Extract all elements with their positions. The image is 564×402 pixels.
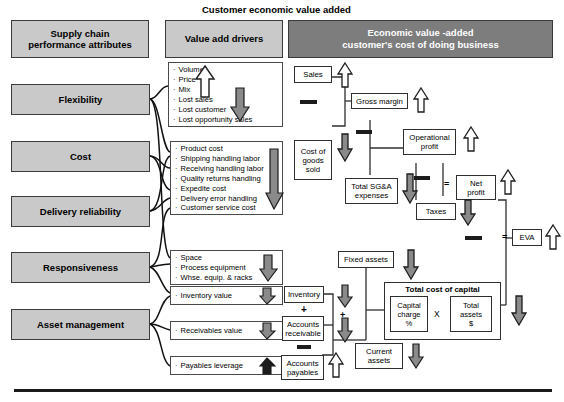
arrow-up-icon	[546, 225, 560, 249]
arrow-up-icon	[501, 170, 515, 194]
diagram-canvas: Customer economic value added Supply cha…	[0, 0, 564, 402]
financial-arrow-layer	[0, 0, 564, 402]
arrow-up-icon	[329, 353, 343, 377]
arrow-up-icon	[414, 88, 428, 112]
arrow-down-icon	[461, 200, 475, 225]
arrow-down-icon	[409, 344, 423, 368]
arrow-down-icon	[338, 318, 352, 342]
bottom-divider	[14, 389, 552, 392]
arrow-up-icon	[464, 127, 478, 151]
arrow-down-icon	[338, 134, 352, 161]
arrow-up-icon	[338, 63, 352, 87]
arrow-down-icon	[512, 296, 526, 325]
arrow-down-icon	[338, 285, 352, 307]
arrow-down-icon	[403, 174, 417, 203]
arrow-down-icon	[404, 250, 418, 279]
